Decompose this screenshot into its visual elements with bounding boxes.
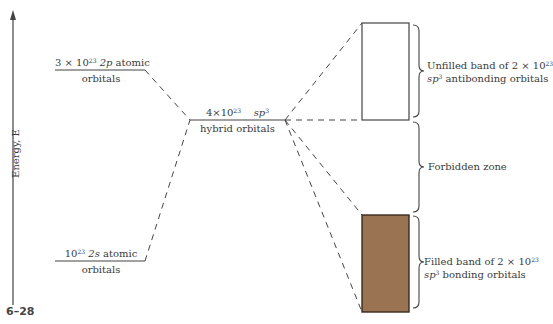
axis-label: Energy, E [10, 119, 21, 189]
label-hybrid-coef: 4×10 [206, 107, 233, 118]
label-forbidden-zone: Forbidden zone [428, 161, 507, 173]
label-unfilled-orbital: sp [427, 73, 439, 84]
label-filled-exp: 23 [531, 256, 539, 263]
label-hybrid-line1: 4×1023 sp3 [190, 107, 285, 119]
label-2p-orbital: 2p [100, 57, 113, 68]
label-2s-type: atomic [100, 248, 137, 259]
label-hybrid-orbital: sp [254, 107, 266, 118]
label-2s-coef: 10 [65, 248, 78, 259]
label-2p-type: atomic [112, 57, 149, 68]
label-2p-exp: 23 [89, 57, 97, 64]
label-unfilled-text: Unfilled band of 2 × 10 [427, 60, 546, 71]
unfilled-band-box [362, 23, 409, 120]
label-filled-line2: sp3 bonding orbitals [424, 269, 526, 281]
label-2s-line2: orbitals [55, 264, 147, 276]
filled-band-box [362, 215, 409, 312]
label-unfilled-line1: Unfilled band of 2 × 1023 [427, 60, 553, 72]
label-2p-coef: 3 × 10 [55, 57, 89, 68]
label-2p-line2: orbitals [55, 73, 147, 85]
label-filled-line1: Filled band of 2 × 1023 [424, 256, 539, 268]
label-unfilled-exp: 23 [546, 60, 553, 67]
label-filled-orbital: sp [424, 269, 436, 280]
label-filled-text: Filled band of 2 × 10 [424, 256, 531, 267]
label-hybrid-exp: 23 [233, 107, 241, 114]
label-unfilled-line2: sp3 antibonding orbitals [427, 73, 548, 85]
label-filled-type: bonding orbitals [439, 269, 525, 280]
label-hybrid-line2: hybrid orbitals [190, 123, 285, 135]
brace-unfilled-icon [413, 25, 424, 117]
label-2s-exp: 23 [77, 248, 85, 255]
label-2s-line1: 1023 2s atomic [55, 248, 147, 260]
brace-filled-icon [413, 216, 424, 308]
label-2s-orbital: 2s [88, 248, 100, 259]
label-hybrid-orbital-exp: 3 [265, 107, 269, 114]
brace-icons [413, 25, 424, 308]
label-2p-line1: 3 × 1023 2p atomic [55, 57, 147, 69]
label-unfilled-type: antibonding orbitals [442, 73, 548, 84]
figure-number: 6–28 [6, 305, 34, 318]
axis-arrow-icon [10, 10, 16, 20]
brace-forbidden-icon [413, 122, 424, 212]
correlation-lines [145, 23, 362, 312]
